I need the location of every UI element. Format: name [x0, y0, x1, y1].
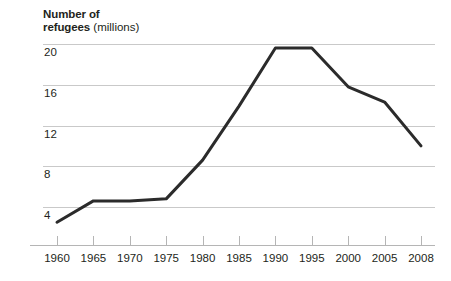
x-tick-2008 — [421, 236, 422, 245]
y-tick-label-16: 16 — [44, 87, 66, 99]
gridline-20 — [43, 44, 435, 45]
x-tick-label-1980: 1980 — [183, 252, 223, 265]
chart-title-bold-2: refugees — [43, 21, 90, 33]
chart-title-unit: (millions) — [93, 21, 139, 33]
x-tick-1970 — [130, 236, 131, 245]
x-tick-label-2005: 2005 — [365, 252, 405, 265]
x-tick-label-1965: 1965 — [73, 252, 113, 265]
y-tick-label-8: 8 — [44, 168, 66, 180]
x-tick-label-1975: 1975 — [146, 252, 186, 265]
chart-title: Number of refugees (millions) — [43, 8, 143, 34]
gridline-16 — [43, 85, 435, 86]
x-tick-1995 — [312, 236, 313, 245]
x-tick-1975 — [166, 236, 167, 245]
chart-title-bold-1: Number of — [43, 8, 100, 20]
plot-area — [43, 38, 435, 245]
x-tick-2000 — [348, 236, 349, 245]
y-tick-label-4: 4 — [44, 209, 66, 221]
x-tick-label-1990: 1990 — [255, 252, 295, 265]
x-tick-1985 — [239, 236, 240, 245]
y-tick-label-20: 20 — [44, 46, 66, 58]
x-tick-1990 — [275, 236, 276, 245]
x-tick-label-1970: 1970 — [110, 252, 150, 265]
y-tick-label-12: 12 — [44, 128, 66, 140]
gridline-4 — [43, 207, 435, 208]
x-tick-label-2008: 2008 — [401, 252, 441, 265]
chart-title-line-1: Number of — [43, 8, 139, 21]
gridline-12 — [43, 126, 435, 127]
x-tick-1965 — [93, 236, 94, 245]
refugees-line-chart: Number of refugees (millions) 4812162019… — [0, 0, 451, 281]
x-axis-line — [30, 245, 435, 246]
x-tick-2005 — [385, 236, 386, 245]
x-tick-label-1985: 1985 — [219, 252, 259, 265]
x-tick-1960 — [57, 236, 58, 245]
x-tick-label-1960: 1960 — [37, 252, 77, 265]
x-tick-label-2000: 2000 — [328, 252, 368, 265]
x-tick-label-1995: 1995 — [292, 252, 332, 265]
chart-title-line-2: refugees (millions) — [43, 21, 139, 34]
gridline-8 — [43, 166, 435, 167]
x-tick-1980 — [203, 236, 204, 245]
